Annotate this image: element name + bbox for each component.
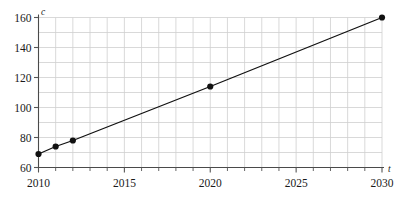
- x-axis-tick-label: 2015: [113, 177, 136, 189]
- y-axis-tick-label: 140: [14, 42, 32, 54]
- data-point-marker: [379, 14, 385, 20]
- chart-container: 1601401201008060 20102015202020252030 c …: [0, 0, 407, 207]
- y-axis-tick-label: 120: [14, 72, 32, 84]
- x-axis-tick-label: 2020: [199, 177, 222, 189]
- x-axis-tick-label: 2030: [371, 177, 394, 189]
- y-axis-tick-label: 160: [14, 12, 32, 24]
- y-axis-tick-label: 100: [14, 102, 32, 114]
- x-axis-tick-label: 2010: [27, 177, 50, 189]
- line-chart: 1601401201008060 20102015202020252030 c …: [0, 0, 407, 207]
- data-point-marker: [53, 143, 59, 149]
- data-point-marker: [207, 83, 213, 89]
- y-axis-tick-label: 60: [20, 162, 32, 174]
- y-axis-tick-label: 80: [20, 132, 32, 144]
- data-point-marker: [35, 151, 41, 157]
- x-axis-tick-label: 2025: [285, 177, 308, 189]
- data-point-marker: [70, 137, 76, 143]
- x-axis-label: t: [388, 164, 391, 174]
